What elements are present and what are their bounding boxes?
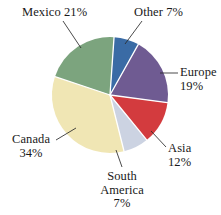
slice-label-asia-line2: 12% [168,156,191,170]
slice-label-other: Other 7% [134,6,183,20]
slice-label-south-america-line1: South [94,170,150,184]
slice-label-europe-line2: 19% [180,80,217,94]
leader-line-mexico [63,21,81,48]
slice-label-other-line1: Other 7% [134,6,183,20]
slice-label-europe-line1: Europe [180,66,217,80]
leader-line-asia [151,131,166,147]
slice-label-europe: Europe 19% [180,66,217,93]
slice-label-mexico-line1: Mexico 21% [22,6,87,20]
slice-label-canada: Canada 34% [3,133,59,160]
slice-label-asia-line1: Asia [168,142,191,156]
slice-label-south-america-line3: 7% [94,197,150,211]
slice-label-asia: Asia 12% [168,142,191,169]
slice-label-south-america-line2: America [94,184,150,198]
slice-label-canada-line1: Canada [3,133,59,147]
slice-label-canada-line2: 34% [3,147,59,161]
leader-line-south-america [116,150,122,167]
slice-label-south-america: South America 7% [94,170,150,211]
slice-label-mexico: Mexico 21% [22,6,87,20]
leader-line-other [125,21,142,44]
pie-chart-figure: Mexico 21% Other 7% Europe 19% Asia 12% … [0,0,221,215]
